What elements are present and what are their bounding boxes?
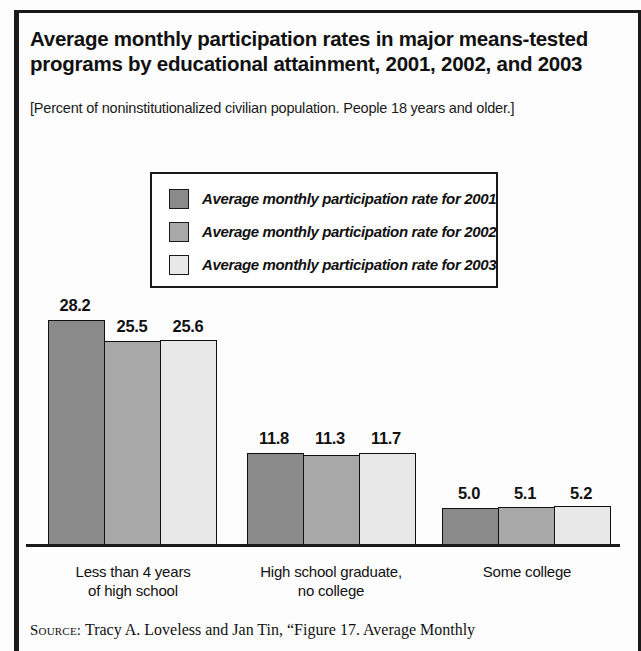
source-note: Source: Tracy A. Loveless and Jan Tin, “…: [30, 620, 630, 640]
legend-swatch-2001-icon: [169, 189, 189, 209]
chart-legend: Average monthly participation rate for 2…: [150, 172, 498, 288]
bar-value-g2-2002: 11.3: [299, 429, 361, 448]
category-label-1-line-1: Less than 4 years: [43, 562, 223, 581]
legend-label-2003: Average monthly participation rate for 2…: [202, 256, 496, 273]
legend-label-2001: Average monthly participation rate for 2…: [202, 190, 496, 207]
plot-area: 28.2 25.5 25.6 11.8 11.3 11.7 5.0 5.1 5.…: [0, 0, 641, 651]
bar-g2-2003: [359, 453, 416, 545]
category-label-3: Some college: [437, 562, 617, 581]
bar-g1-2003: [160, 340, 217, 545]
source-label: Source:: [30, 622, 81, 638]
bar-value-g3-2001: 5.0: [438, 484, 500, 503]
bar-value-g1-2003: 25.6: [157, 317, 219, 336]
bar-g3-2003: [554, 506, 611, 545]
bar-value-g3-2002: 5.1: [494, 484, 556, 503]
bar-value-g1-2002: 25.5: [101, 317, 163, 336]
legend-label-2002: Average monthly participation rate for 2…: [202, 223, 496, 240]
category-label-1: Less than 4 years of high school: [43, 562, 223, 600]
legend-swatch-2003-icon: [169, 255, 189, 275]
chart-subtitle: [Percent of noninstitutionalized civilia…: [30, 99, 620, 117]
bar-value-g1-2001: 28.2: [44, 296, 106, 315]
category-label-2: High school graduate, no college: [241, 562, 421, 600]
figure-frame: Average monthly participation rates in m…: [0, 0, 641, 651]
bar-g3-2002: [498, 507, 555, 545]
bar-value-g2-2003: 11.7: [355, 429, 417, 448]
legend-swatch-2002-icon: [169, 222, 189, 242]
legend-item-2003: Average monthly participation rate for 2…: [169, 248, 496, 281]
bar-value-g3-2003: 5.2: [550, 484, 612, 503]
x-axis-baseline: [26, 544, 620, 547]
bar-g3-2001: [442, 508, 499, 545]
bar-g1-2001: [48, 320, 105, 545]
category-label-1-line-2: of high school: [43, 581, 223, 600]
chart-title: Average monthly participation rates in m…: [30, 26, 610, 76]
legend-item-2001: Average monthly participation rate for 2…: [169, 182, 496, 215]
bar-value-g2-2001: 11.8: [243, 429, 305, 448]
frame-top-border: [14, 10, 641, 13]
bar-g1-2002: [104, 341, 161, 545]
frame-left-border: [14, 10, 19, 651]
category-label-2-line-1: High school graduate,: [241, 562, 421, 581]
source-text: Tracy A. Loveless and Jan Tin, “Figure 1…: [81, 621, 475, 638]
bar-g2-2001: [247, 453, 304, 545]
bar-g2-2002: [303, 455, 360, 545]
category-label-3-line-1: Some college: [437, 562, 617, 581]
legend-item-2002: Average monthly participation rate for 2…: [169, 215, 496, 248]
category-label-2-line-2: no college: [241, 581, 421, 600]
